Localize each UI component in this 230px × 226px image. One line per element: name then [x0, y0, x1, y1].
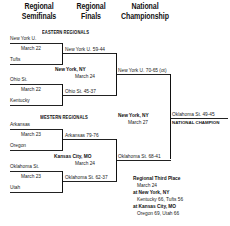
team-oklahoma-st: Oklahoma St.	[10, 164, 39, 170]
third-place-date: March 24	[137, 183, 157, 189]
east-final-location: New York, NY	[55, 67, 86, 73]
bracket-line	[171, 118, 228, 119]
game-date: March 22	[21, 87, 41, 93]
bracket-line	[10, 171, 63, 172]
team-new-york-u: New York U.	[10, 36, 36, 42]
header-line: Regional	[15, 1, 63, 11]
eastern-regionals-title: EASTERN REGIONALS	[42, 30, 89, 35]
team-arkansas: Arkansas	[10, 122, 30, 128]
western-regionals-title: WESTERN REGIONALS	[40, 115, 88, 120]
bracket-connector	[170, 74, 171, 159]
game-date: March 22	[21, 46, 41, 52]
header-line: National	[119, 1, 170, 11]
bracket-line	[10, 129, 63, 130]
header-line: Semifinals	[15, 11, 63, 21]
national-location: New York, NY	[118, 113, 149, 119]
header-line: Championship	[119, 11, 170, 21]
third-place-site-2: at Kansas City, MO	[133, 204, 176, 210]
bracket-line	[117, 160, 171, 161]
west-final-date: March 24	[75, 161, 95, 167]
bracket-line	[10, 150, 63, 151]
header-line: Regional	[71, 1, 112, 11]
third-place-result-1: Kentucky 66, Tufts 56	[137, 197, 183, 203]
team-ohio-st: Ohio St.	[10, 77, 27, 83]
east-final-date: March 24	[75, 74, 95, 80]
bracket-connector	[116, 139, 117, 181]
game-date: March 23	[21, 174, 41, 180]
third-place-title: Regional Third Place	[133, 176, 180, 182]
third-place-site-1: at New York, NY	[133, 190, 169, 196]
bracket-line	[10, 84, 63, 85]
bracket-line	[10, 105, 63, 106]
national-date: March 27	[128, 120, 148, 126]
national-champion-label: NATIONAL CHAMPION	[172, 120, 219, 126]
team-tufts: Tufts	[10, 57, 20, 63]
bracket-line	[117, 74, 171, 75]
west-final-location: Kansas City, MO	[54, 154, 92, 160]
third-place-result-2: Oregon 69, Utah 66	[137, 211, 179, 217]
team-oregon: Oregon	[10, 143, 26, 149]
header-line: Finals	[71, 11, 112, 21]
bracket-line	[10, 43, 63, 44]
bracket-line	[63, 181, 117, 182]
team-kentucky: Kentucky	[10, 98, 30, 104]
bracket-line	[63, 95, 117, 96]
bracket-line	[63, 139, 117, 140]
game-date: March 23	[21, 132, 41, 138]
bracket-line	[10, 64, 63, 65]
bracket-line	[63, 53, 117, 54]
team-utah: Utah	[10, 185, 20, 191]
header-regional-semifinals: Regional Semifinals	[15, 1, 63, 21]
bracket-line	[10, 192, 63, 193]
header-national-championship: National Championship	[119, 1, 170, 21]
header-regional-finals: Regional Finals	[71, 1, 112, 21]
